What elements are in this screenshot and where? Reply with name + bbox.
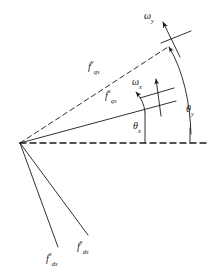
label-f-qs-y-superscript: y: [91, 58, 94, 65]
vector-f-ds-x: [20, 143, 58, 247]
label-f-ds-x-superscript: x: [49, 250, 52, 257]
label-theta-x: θx: [133, 116, 141, 135]
label-omega-x: ωx: [132, 72, 142, 91]
theta-y-arc-arrow: [169, 47, 191, 134]
vector-f-qs-x: [20, 101, 176, 143]
label-omega-y-base: ω: [144, 10, 151, 21]
vector-f-ds-y: [20, 143, 88, 235]
label-theta-y-subscript: y: [191, 110, 194, 117]
label-omega-y: ωy: [144, 6, 154, 25]
label-f-qs-y-subscript: qs: [94, 68, 100, 75]
label-f-qs-x-superscript: x: [108, 87, 111, 94]
diagram-canvas: [0, 0, 221, 277]
label-f-ds-x: fxds: [46, 249, 57, 268]
label-omega-x-base: ω: [132, 76, 139, 87]
label-f-qs-y: fyqs: [88, 57, 99, 76]
label-f-ds-y: fyds: [77, 237, 88, 256]
label-f-qs-x-subscript: qs: [111, 97, 117, 104]
omega-y-cross-bar: [161, 31, 191, 43]
omega-x-arrow: [156, 79, 161, 116]
label-f-ds-y-superscript: y: [80, 238, 83, 245]
label-omega-y-subscript: y: [151, 17, 154, 24]
label-theta-y: θy: [186, 99, 194, 118]
theta-x-arc-arrow: [136, 92, 145, 112]
label-omega-x-subscript: x: [139, 83, 142, 90]
vector-diagram: fyqs fxqs fxds fyds ωy ωx θy θx: [0, 0, 221, 277]
label-f-ds-y-subscript: ds: [83, 248, 89, 255]
label-f-ds-x-subscript: ds: [52, 260, 58, 267]
label-f-qs-x: fxqs: [105, 86, 116, 105]
label-theta-x-subscript: x: [138, 127, 141, 134]
